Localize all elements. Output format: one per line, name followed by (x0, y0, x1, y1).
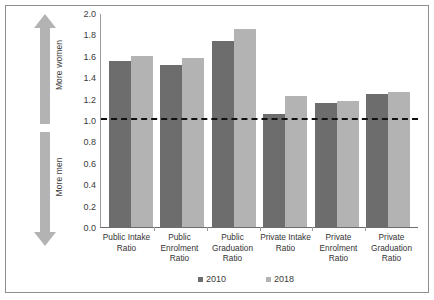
plot-area (100, 14, 418, 228)
y-axis-tick-label: 0.2 (70, 202, 96, 211)
y-axis-tick-label: 0.8 (70, 138, 96, 147)
x-axis-category-label: PublicEnrolmentRatio (153, 230, 206, 272)
x-axis-category-label: PublicGraduationRatio (206, 230, 259, 272)
bar-2018[interactable] (285, 96, 307, 227)
legend-swatch-icon (266, 277, 271, 282)
bar-group (160, 14, 204, 227)
bar-group (366, 14, 410, 227)
x-axis-category-label: PrivateGraduationRatio (365, 230, 418, 272)
x-axis-label-line: Public (221, 232, 244, 242)
x-axis-label-line: Ratio (382, 253, 401, 263)
bar-2018[interactable] (131, 56, 153, 227)
bar-group (212, 14, 256, 227)
bar-2018[interactable] (388, 92, 410, 227)
x-axis-label-line: Ratio (223, 253, 242, 263)
x-axis-label-line: Private Intake (260, 232, 311, 242)
direction-annotation-column: More women More men (10, 14, 70, 246)
x-axis-label-line: Enrolment (161, 243, 199, 253)
more-men-label: More men (54, 122, 64, 232)
legend-item-2010[interactable]: 2010 (198, 274, 226, 284)
y-axis: 0.00.20.40.60.81.01.21.41.61.82.0 (70, 14, 96, 228)
legend-label: 2018 (274, 274, 294, 284)
y-axis-tick-label: 1.0 (70, 117, 96, 126)
bar-group (263, 14, 307, 227)
x-axis-category-label: Private IntakeRatio (259, 230, 312, 272)
bar-2010[interactable] (366, 94, 388, 227)
x-axis-label-line: Public Intake (103, 232, 151, 242)
x-axis-label-line: Private (379, 232, 405, 242)
chart-figure: More women More men 0.00.20.40.60.81.01.… (0, 0, 434, 300)
bar-2010[interactable] (315, 103, 337, 227)
x-axis-label-line: Ratio (276, 243, 295, 253)
up-arrow-icon (34, 14, 56, 128)
y-axis-tick-label: 1.6 (70, 52, 96, 61)
bars-container (101, 14, 418, 227)
x-axis-label-line: Graduation (212, 243, 253, 253)
x-axis: Public IntakeRatioPublicEnrolmentRatioPu… (100, 230, 418, 272)
y-axis-tick-label: 1.8 (70, 31, 96, 40)
bar-2010[interactable] (212, 41, 234, 227)
down-arrow-icon (34, 132, 56, 250)
bar-2010[interactable] (160, 65, 182, 227)
bar-2018[interactable] (234, 29, 256, 227)
y-axis-tick-label: 0.6 (70, 159, 96, 168)
x-axis-label-line: Private (326, 232, 352, 242)
y-axis-tick-label: 1.4 (70, 74, 96, 83)
bar-2018[interactable] (337, 101, 359, 227)
x-axis-label-line: Ratio (329, 253, 348, 263)
bar-2018[interactable] (182, 58, 204, 227)
x-axis-label-line: Enrolment (320, 243, 358, 253)
x-axis-category-label: Public IntakeRatio (100, 230, 153, 272)
y-axis-tick-label: 0.0 (70, 224, 96, 233)
bar-2010[interactable] (263, 114, 285, 227)
y-axis-tick-label: 0.4 (70, 181, 96, 190)
x-axis-label-line: Ratio (170, 253, 189, 263)
bar-group (109, 14, 153, 227)
bar-2010[interactable] (109, 61, 131, 227)
plot-wrapper: 0.00.20.40.60.81.01.21.41.61.82.0 Public… (70, 14, 422, 286)
x-axis-label-line: Public (168, 232, 191, 242)
x-axis-label-line: Graduation (371, 243, 412, 253)
y-axis-tick-label: 2.0 (70, 10, 96, 19)
legend-item-2018[interactable]: 2018 (266, 274, 294, 284)
bar-group (315, 14, 359, 227)
chart-legend: 20102018 (70, 274, 422, 284)
x-axis-category-label: PrivateEnrolmentRatio (312, 230, 365, 272)
legend-swatch-icon (198, 277, 203, 282)
legend-label: 2010 (206, 274, 226, 284)
x-axis-label-line: Ratio (117, 243, 136, 253)
y-axis-tick-label: 1.2 (70, 95, 96, 104)
more-women-label: More women (54, 10, 64, 120)
